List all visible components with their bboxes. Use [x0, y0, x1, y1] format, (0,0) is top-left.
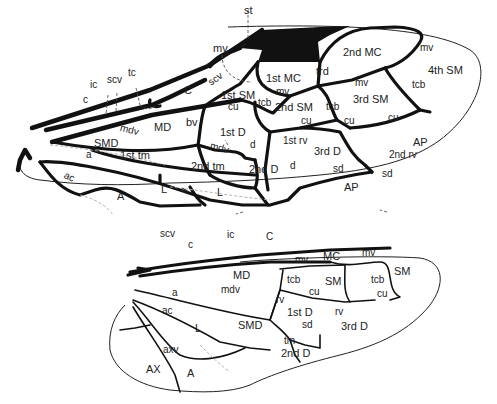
label-cu: cu	[228, 102, 239, 112]
label-tcb: tcb	[326, 102, 339, 112]
label-cu: cu	[377, 289, 388, 299]
label-trd: trd	[316, 66, 329, 77]
label-ic: ic	[227, 230, 234, 240]
label-MD: MD	[233, 270, 250, 281]
label-tcb: tcb	[371, 275, 384, 285]
label-3rd-SM: 3rd SM	[353, 94, 388, 105]
label-sd: sd	[302, 320, 313, 330]
label-1st-rv: 1st rv	[283, 136, 307, 146]
label-mv: mv	[355, 78, 368, 88]
label-a: a	[86, 150, 92, 160]
label-tcb: tcb	[287, 275, 300, 285]
label-cu: cu	[344, 116, 355, 126]
label-2nd-D: 2nd D	[249, 164, 278, 175]
label-AP: AP	[413, 137, 428, 148]
label-2nd-tm: 2nd tm	[191, 161, 225, 172]
label-C: C	[184, 85, 192, 96]
label-SM: SM	[325, 276, 342, 287]
label-2nd-rv: 2nd rv	[389, 150, 417, 160]
wing-venation-figure: st mv scv tc ic scv c C MD mdv bv SMD a …	[0, 0, 497, 404]
label-C: C	[266, 232, 273, 242]
label-1st-D: 1st D	[220, 127, 246, 138]
label-SMD: SMD	[94, 138, 118, 149]
label-mv: mv	[213, 43, 228, 54]
label-st: st	[244, 5, 253, 16]
label-2nd-SM: 2nd SM	[275, 102, 313, 113]
label-AP: AP	[344, 182, 359, 193]
label-cu: cu	[301, 116, 312, 126]
label-A: A	[187, 368, 194, 379]
label-A: A	[117, 191, 124, 202]
label-tm: tm	[284, 336, 295, 346]
label-d: d	[290, 161, 296, 171]
label-ac: ac	[162, 306, 173, 316]
label-sd: sd	[333, 164, 344, 174]
label-1st-tm: 1st tm	[120, 150, 150, 161]
label-c: c	[188, 240, 193, 250]
label-L: L	[195, 323, 201, 334]
label-rv: rv	[276, 295, 284, 305]
label-4th-SM: 4th SM	[428, 65, 463, 76]
label-mv: mv	[362, 248, 375, 258]
label-ic: ic	[90, 80, 97, 90]
label-MD: MD	[154, 122, 171, 133]
label-1st-SM: 1st SM	[221, 90, 255, 101]
label-mdv: mdv	[221, 285, 240, 295]
label-tc: tc	[128, 68, 136, 78]
label-sd: sd	[382, 169, 393, 179]
label-a: a	[172, 288, 178, 298]
wing-drawing	[0, 0, 497, 404]
label-L: L	[217, 187, 223, 198]
label-d: d	[250, 140, 256, 150]
label-AX: AX	[146, 364, 161, 375]
label-1st-MC: 1st MC	[266, 73, 301, 84]
label-axv: axv	[163, 345, 179, 355]
label-mv: mv	[276, 87, 289, 97]
label-bv: bv	[186, 117, 198, 128]
label-rv: rv	[335, 307, 343, 317]
forewing	[18, 10, 481, 215]
label-3rd-D: 3rd D	[314, 146, 341, 157]
label-SMD: SMD	[238, 320, 262, 331]
label-scv: scv	[160, 229, 175, 239]
label-SM: SM	[394, 266, 411, 277]
label-2nd-MC: 2nd MC	[343, 47, 382, 58]
label-tcb: tcb	[412, 80, 425, 90]
label-1st-D: 1st D	[287, 307, 313, 318]
label-mv: mv	[295, 255, 308, 265]
label-L: L	[161, 184, 167, 195]
label-2nd-D: 2nd D	[281, 348, 310, 359]
label-tcb: tcb	[258, 98, 271, 108]
label-cu: cu	[388, 113, 399, 123]
label-cu: cu	[309, 287, 320, 297]
label-mv: mv	[420, 43, 433, 53]
label-scv: scv	[107, 75, 122, 85]
label-MC: MC	[323, 251, 340, 262]
label-c: c	[83, 95, 88, 105]
label-3rd-D: 3rd D	[341, 321, 368, 332]
